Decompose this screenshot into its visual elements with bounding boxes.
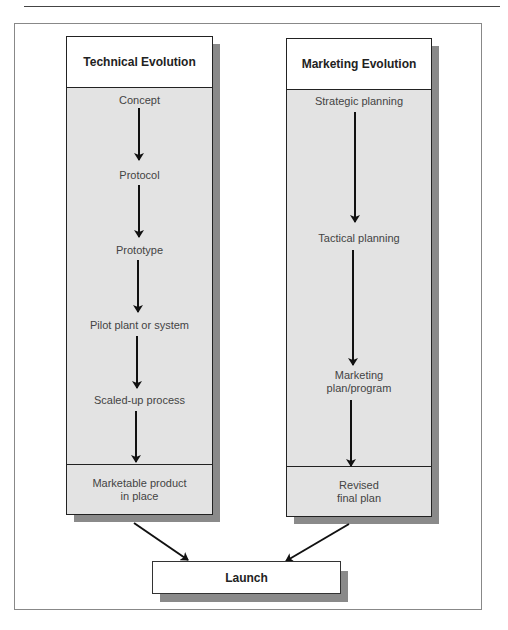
arrow-marketing-to-launch bbox=[286, 524, 349, 561]
arrow-technical-to-launch bbox=[134, 523, 188, 560]
launch-label: Launch bbox=[225, 571, 268, 585]
flow-arrows bbox=[0, 0, 508, 630]
launch-box: Launch bbox=[152, 561, 341, 594]
